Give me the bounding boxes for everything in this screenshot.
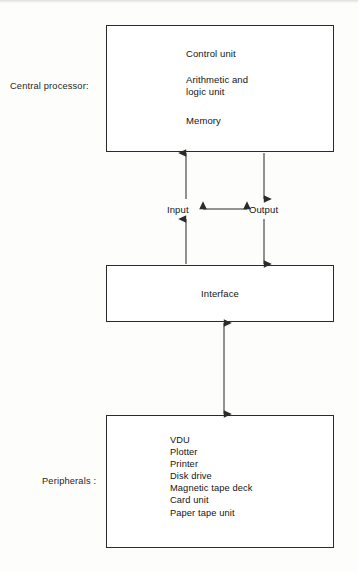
input-label: Input: [167, 204, 189, 215]
peripheral-item-printer: Printer: [170, 458, 252, 470]
peripheral-item-vdu: VDU: [170, 434, 252, 446]
peripherals-list: VDU Plotter Printer Disk drive Magnetic …: [170, 434, 252, 519]
peripheral-item-disk-drive: Disk drive: [170, 470, 252, 482]
top-edge-band: [0, 0, 358, 3]
interface-label: Interface: [106, 288, 334, 299]
central-processor-label: Central processor:: [10, 81, 89, 91]
cpu-arithmetic-logic-unit-text: Arithmetic and logic unit: [186, 74, 248, 97]
output-label: Output: [249, 204, 278, 215]
peripherals-label: Peripherals :: [42, 476, 96, 486]
peripheral-item-card-unit: Card unit: [170, 494, 252, 506]
peripheral-item-plotter: Plotter: [170, 446, 252, 458]
peripheral-item-magnetic-tape-deck: Magnetic tape deck: [170, 482, 252, 494]
cpu-memory-text: Memory: [186, 115, 221, 127]
block-diagram: Central processor: Control unit Arithmet…: [0, 0, 358, 572]
cpu-control-unit-text: Control unit: [186, 48, 236, 60]
peripheral-item-paper-tape-unit: Paper tape unit: [170, 507, 252, 519]
